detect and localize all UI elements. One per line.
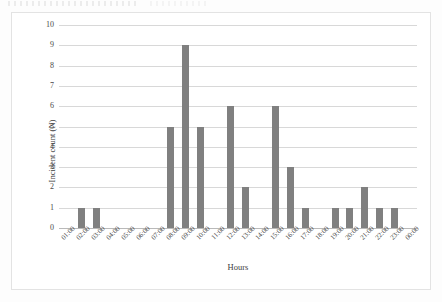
bar[interactable] [182, 45, 189, 228]
y-axis-tick-label: 10 [46, 21, 54, 29]
scanned-page: Incident count (N) 109876543210 01:0002:… [0, 0, 442, 302]
bar-slot [298, 25, 313, 228]
bar-slot [313, 25, 328, 228]
bar[interactable] [197, 127, 204, 229]
bar-slot [402, 25, 417, 228]
bar-slot [387, 25, 402, 228]
bar[interactable] [361, 187, 368, 228]
scan-artifact [150, 1, 210, 6]
bar-slot [238, 25, 253, 228]
bar-slot [223, 25, 238, 228]
bar[interactable] [376, 208, 383, 228]
bar-slot [149, 25, 164, 228]
bar-slot [268, 25, 283, 228]
bar-slot [134, 25, 149, 228]
y-axis-tick-label: 7 [50, 82, 54, 90]
bar-slot [208, 25, 223, 228]
bar-slot [74, 25, 89, 228]
bar[interactable] [391, 208, 398, 228]
y-axis-tick-label: 8 [50, 62, 54, 70]
bar[interactable] [242, 187, 249, 228]
x-axis-title: Hours [59, 262, 417, 272]
bar[interactable] [346, 208, 353, 228]
plot-area: 109876543210 [59, 25, 417, 228]
bar[interactable] [332, 208, 339, 228]
bar-slot [283, 25, 298, 228]
chart-frame: Incident count (N) 109876543210 01:0002:… [11, 12, 431, 290]
bar-slot [328, 25, 343, 228]
bar-slot [59, 25, 74, 228]
y-axis-tick-label: 1 [50, 204, 54, 212]
bar-slot [163, 25, 178, 228]
bar-slot [372, 25, 387, 228]
bar-slot [253, 25, 268, 228]
bar-slot [343, 25, 358, 228]
scan-artifact [8, 1, 138, 6]
bar-slot [193, 25, 208, 228]
y-axis-tick-label: 9 [50, 41, 54, 49]
bar-slot [104, 25, 119, 228]
bar[interactable] [272, 106, 279, 228]
bar[interactable] [167, 127, 174, 229]
y-axis-tick-label: 0 [50, 224, 54, 232]
bar-slot [119, 25, 134, 228]
bar[interactable] [227, 106, 234, 228]
bar-slot [357, 25, 372, 228]
bar[interactable] [287, 167, 294, 228]
y-axis-tick-label: 6 [50, 102, 54, 110]
bar-series [59, 25, 417, 228]
bar-slot [178, 25, 193, 228]
bar-slot [89, 25, 104, 228]
y-axis-title: Incident count (N) [47, 120, 57, 183]
y-axis-tick-label: 2 [50, 183, 54, 191]
